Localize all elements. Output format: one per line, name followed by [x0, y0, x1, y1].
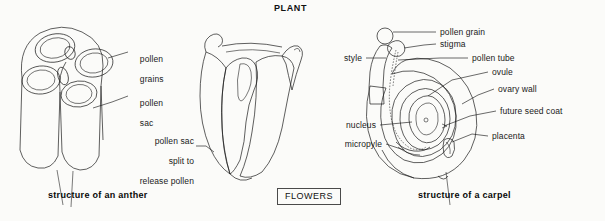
label-style: style: [326, 53, 362, 63]
label-nucleus: nucleus: [310, 120, 376, 130]
label-split-line1: pollen sac: [155, 136, 194, 146]
label-placenta: placenta: [492, 131, 525, 141]
label-pollen-grains-line1: pollen: [140, 54, 163, 64]
leader-pollen-grains: [108, 52, 128, 58]
label-pollen-sac-line1: pollen: [140, 98, 163, 108]
nucleus-shape: [424, 118, 428, 122]
leader-pollen-sac: [93, 96, 128, 108]
label-pollen-tube: pollen tube: [472, 53, 515, 63]
pollen-grain-shape: [377, 28, 393, 44]
figure-dehisced-anther: [196, 34, 302, 180]
label-ovary-wall: ovary wall: [498, 84, 537, 94]
leader-pollen-tube: [398, 58, 468, 60]
label-micropyle: micropyle: [306, 139, 382, 149]
label-ovule: ovule: [492, 67, 513, 77]
leader-stigma: [404, 44, 436, 48]
caption-anther: structure of an anther: [48, 190, 148, 200]
label-pollen-grains-line2: grains: [140, 74, 164, 84]
leader-ovary-wall: [462, 89, 494, 104]
flowers-tag: FLOWERS: [277, 188, 341, 205]
label-stigma: stigma: [440, 39, 466, 49]
leader-future-seed-coat: [444, 111, 496, 126]
label-pollen-grains: pollen grains: [130, 44, 164, 94]
label-split-line3: release pollen: [140, 176, 194, 186]
diagram-canvas: PLANT: [0, 0, 605, 221]
label-pollen-grain: pollen grain: [440, 27, 485, 37]
label-split-line2: split to: [169, 156, 194, 166]
leader-nucleus: [380, 122, 412, 125]
caption-carpel: structure of a carpel: [418, 190, 511, 200]
label-pollen-sac-split: pollen sac split to release pollen: [116, 126, 194, 196]
label-future-seed-coat: future seed coat: [500, 106, 563, 116]
leader-placenta: [452, 134, 488, 142]
figure-anther-cross-section: [20, 27, 128, 207]
